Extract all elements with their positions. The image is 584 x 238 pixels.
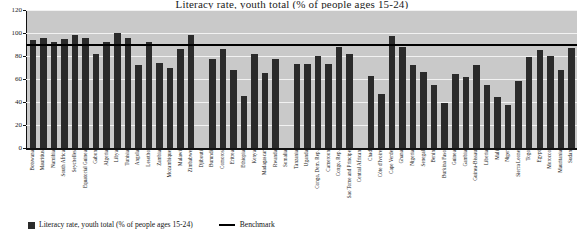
bar[interactable] xyxy=(188,35,195,148)
bar-slot[interactable] xyxy=(471,10,482,148)
bar[interactable] xyxy=(420,72,427,148)
bar-slot[interactable] xyxy=(38,10,49,148)
bar[interactable] xyxy=(389,36,396,148)
bar-slot[interactable] xyxy=(387,10,398,148)
bar-slot[interactable] xyxy=(513,10,524,148)
bar[interactable] xyxy=(526,57,533,148)
bar[interactable] xyxy=(558,70,565,148)
bar[interactable] xyxy=(346,54,353,148)
bar[interactable] xyxy=(452,74,459,148)
bar-slot[interactable] xyxy=(112,10,123,148)
bar-slot[interactable] xyxy=(260,10,271,148)
bar[interactable] xyxy=(209,59,216,148)
bar-slot[interactable] xyxy=(439,10,450,148)
bar-slot[interactable] xyxy=(566,10,577,148)
bar[interactable] xyxy=(40,38,47,148)
bar-slot[interactable] xyxy=(556,10,567,148)
bar-slot[interactable] xyxy=(344,10,355,148)
bar[interactable] xyxy=(399,47,406,148)
bar-slot[interactable] xyxy=(218,10,229,148)
bar[interactable] xyxy=(93,54,100,148)
bar[interactable] xyxy=(135,65,142,148)
bar[interactable] xyxy=(378,94,385,148)
bar-slot[interactable] xyxy=(450,10,461,148)
bar[interactable] xyxy=(473,65,480,148)
bar[interactable] xyxy=(537,50,544,148)
bar-slot[interactable] xyxy=(397,10,408,148)
bar[interactable] xyxy=(294,64,301,148)
bar[interactable] xyxy=(463,77,470,148)
bar[interactable] xyxy=(82,38,89,148)
bar[interactable] xyxy=(167,68,174,149)
bar-slot[interactable] xyxy=(49,10,60,148)
bar[interactable] xyxy=(230,70,237,148)
bar-slot[interactable] xyxy=(334,10,345,148)
bar[interactable] xyxy=(61,39,68,148)
bar-slot[interactable] xyxy=(28,10,39,148)
bar-slot[interactable] xyxy=(524,10,535,148)
bar[interactable] xyxy=(103,42,110,148)
bar[interactable] xyxy=(515,81,522,148)
bar[interactable] xyxy=(315,56,322,148)
bar[interactable] xyxy=(72,35,79,148)
bar[interactable] xyxy=(272,59,279,148)
bar-slot[interactable] xyxy=(101,10,112,148)
bar[interactable] xyxy=(568,48,575,148)
bar-slot[interactable] xyxy=(545,10,556,148)
bar[interactable] xyxy=(431,85,438,148)
bar-slot[interactable] xyxy=(59,10,70,148)
bar-slot[interactable] xyxy=(249,10,260,148)
bar[interactable] xyxy=(304,64,311,148)
bar[interactable] xyxy=(262,73,269,148)
bar-slot[interactable] xyxy=(418,10,429,148)
bar[interactable] xyxy=(220,49,227,148)
bar[interactable] xyxy=(325,64,332,148)
bar-slot[interactable] xyxy=(228,10,239,148)
bar-slot[interactable] xyxy=(482,10,493,148)
bar[interactable] xyxy=(441,103,448,148)
bar[interactable] xyxy=(251,54,258,148)
bar-slot[interactable] xyxy=(355,10,366,148)
bar-slot[interactable] xyxy=(80,10,91,148)
bar[interactable] xyxy=(125,38,132,148)
bar[interactable] xyxy=(410,65,417,148)
bar-slot[interactable] xyxy=(123,10,134,148)
bar-slot[interactable] xyxy=(461,10,472,148)
bar[interactable] xyxy=(146,42,153,148)
bar-slot[interactable] xyxy=(207,10,218,148)
bar-slot[interactable] xyxy=(535,10,546,148)
bar[interactable] xyxy=(336,47,343,148)
bar[interactable] xyxy=(505,105,512,148)
bar-slot[interactable] xyxy=(186,10,197,148)
bar[interactable] xyxy=(241,96,248,148)
bar-slot[interactable] xyxy=(323,10,334,148)
bar-slot[interactable] xyxy=(366,10,377,148)
bar[interactable] xyxy=(547,56,554,148)
bar[interactable] xyxy=(30,40,37,148)
bar-slot[interactable] xyxy=(154,10,165,148)
bar-slot[interactable] xyxy=(503,10,514,148)
bar-slot[interactable] xyxy=(292,10,303,148)
bar-slot[interactable] xyxy=(270,10,281,148)
bar-slot[interactable] xyxy=(91,10,102,148)
bar[interactable] xyxy=(114,33,121,148)
bar-slot[interactable] xyxy=(197,10,208,148)
bar[interactable] xyxy=(494,97,501,148)
bar-slot[interactable] xyxy=(281,10,292,148)
bar-slot[interactable] xyxy=(313,10,324,148)
bar-slot[interactable] xyxy=(144,10,155,148)
bar-slot[interactable] xyxy=(408,10,419,148)
bar-slot[interactable] xyxy=(376,10,387,148)
bar[interactable] xyxy=(51,42,58,148)
bar-slot[interactable] xyxy=(70,10,81,148)
bar-slot[interactable] xyxy=(175,10,186,148)
bar-slot[interactable] xyxy=(492,10,503,148)
bar-slot[interactable] xyxy=(165,10,176,148)
bar-slot[interactable] xyxy=(302,10,313,148)
bar[interactable] xyxy=(484,85,491,148)
bar-slot[interactable] xyxy=(133,10,144,148)
bar[interactable] xyxy=(368,76,375,148)
bar-slot[interactable] xyxy=(239,10,250,148)
bar[interactable] xyxy=(156,63,163,148)
bar-slot[interactable] xyxy=(429,10,440,148)
